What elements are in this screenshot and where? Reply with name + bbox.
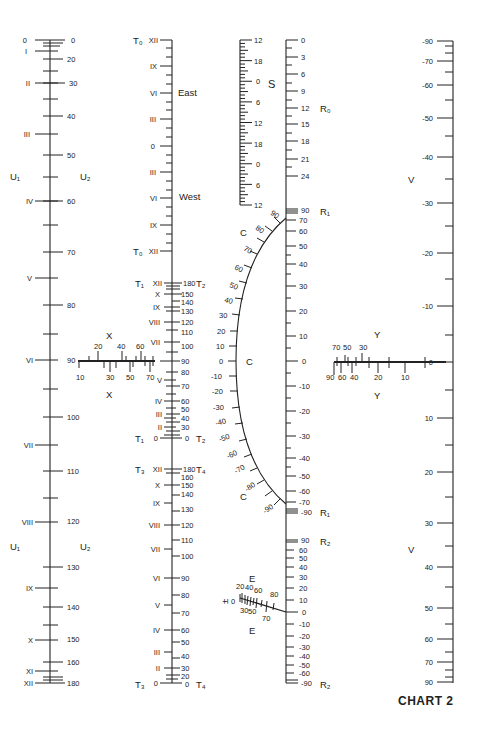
t3-label: T₃ [135,464,145,475]
r0-tick: 6 [301,70,305,79]
u2-tick: 30 [69,79,77,88]
r2-tick: 10 [299,596,307,605]
u1-tick-0: 0 [23,36,27,45]
v-tick: -60 [422,81,433,90]
c-tick: 70 [242,244,254,256]
r2-tick: -30 [299,643,310,652]
t2-tick: 80 [181,368,189,377]
t2-tick: 30 [181,423,189,432]
r1-tick: 90 [301,206,309,215]
r1-tick: -30 [299,432,310,441]
u2-tick: 140 [67,603,80,612]
x-label: X [106,389,113,400]
u2-tick: 120 [67,517,80,526]
u1-tick-X: X [28,636,33,645]
u1-tick-XI: XI [26,667,33,676]
t2-tick: 120 [181,318,194,327]
t2-tick: 0 [185,434,189,443]
r1-tick: 0 [302,357,306,366]
y-tick: 70 [332,343,340,352]
r0-tick: 9 [301,87,305,96]
u1-tick-XII: XII [24,679,33,688]
t3-tick: VIII [149,521,160,530]
u2-tick: 180 [67,679,80,688]
r1-tick: -50 [299,472,310,481]
t4-tick: 60 [181,626,189,635]
v-tick: 0 [429,358,433,367]
e-tick: 70 [262,614,270,623]
t1-tick: IX [153,303,160,312]
u1-tick-I: I [25,47,27,56]
v-label: V [408,544,415,555]
r2-tick: 90 [301,536,309,545]
r2-tick: 30 [299,573,307,582]
t4-tick: 120 [181,521,194,530]
r1-label: R₁ [320,507,330,518]
y-label: Y [374,329,381,340]
t4-label: T₄ [196,679,206,690]
t4-label: T₄ [196,464,206,475]
r1-tick: -90 [301,508,312,517]
y-tick: 10 [401,373,409,382]
r0-tick: 21 [301,155,309,164]
t3-tick: XII [153,465,162,474]
r2-label: R₂ [320,536,331,547]
r2-tick: -20 [299,632,310,641]
t2-tick: 40 [181,414,189,423]
t1-tick: IV [155,397,162,406]
r0-tick: 24 [301,172,309,181]
t1-tick: X [155,290,160,299]
u2-tick: 110 [67,467,79,476]
t3-tick: VII [151,545,160,554]
east-label: East [178,87,197,98]
c-tick: 90 [269,208,281,220]
v-label: V [408,174,415,185]
y-tick: 20 [374,373,382,382]
v-tick: 90 [425,678,433,687]
v-tick: 50 [425,604,433,613]
u1-tick-VIII: VIII [22,518,33,527]
t2-tick: 50 [181,405,189,414]
r0-tick: 0 [301,36,305,45]
s-tick: 6 [256,98,260,107]
s-tick: 18 [254,57,262,66]
c-tick: -50 [218,432,231,444]
u1-tick-VII: VII [24,441,33,450]
t4-tick: 140 [181,490,194,499]
u2-tick: 70 [67,248,75,257]
t3-tick: 0 [154,679,158,688]
r2-tick: 50 [299,554,307,563]
s-scale: 12 18 0 6 12 18 0 6 12 S [240,36,275,210]
s-tick: 6 [256,181,260,190]
r1-tick: 60 [299,227,307,236]
plus-minus-label: ± [219,599,230,604]
r1-label: R₁ [320,206,330,217]
u1-tick-V: V [27,274,32,283]
u2-label: U₂ [80,541,91,552]
u2-tick: 90 [67,356,75,365]
r0-tick: 3 [301,53,305,62]
c-scale: 90 80 70 60 50 40 30 20 10 0 -10 -20 -30… [211,208,286,515]
t2-tick: 140 [181,298,194,307]
t0-tick: 0 [151,142,155,151]
t1-label: T₁ [135,278,144,289]
u2-tick: 130 [67,563,80,572]
v-tick: 70 [425,658,433,667]
r2-label: R₂ [320,679,331,690]
v-tick: 10 [425,414,433,423]
t0-label: T₀ [133,35,143,46]
y-tick: 30 [359,343,367,352]
u1-label: U₁ [10,171,20,182]
t1-tick: II [158,423,162,432]
s-label: S [268,78,275,90]
c-tick: 80 [254,223,266,235]
x-tick: 50 [126,373,134,382]
r2-tick: -40 [299,652,310,661]
y-tick: 60 [338,373,346,382]
r2-tick: 20 [299,584,307,593]
t2-tick: 180 [183,279,196,288]
t2-tick: 110 [181,328,193,337]
v-tick: -90 [422,37,433,46]
t3-tick: IX [153,499,160,508]
r2-tick: -10 [299,620,310,629]
